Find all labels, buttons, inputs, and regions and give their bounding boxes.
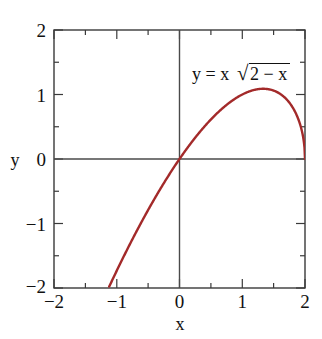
x-axis-title: x <box>176 314 185 334</box>
x-tick-label--1: −1 <box>107 291 127 312</box>
x-tick-label--2: −2 <box>44 291 64 312</box>
radical-icon: √ <box>237 61 249 85</box>
y-tick-label-0: 0 <box>37 149 47 170</box>
equation-lhs: y = x <box>192 64 229 84</box>
y-tick-label--1: −1 <box>26 214 46 235</box>
y-tick-label--2: −2 <box>26 276 46 297</box>
x-tick-label-0: 0 <box>175 291 185 312</box>
equation-radicand: 2 − x <box>250 64 287 84</box>
x-tick-label-1: 1 <box>238 291 248 312</box>
y-tick-label-2: 2 <box>37 20 47 41</box>
y-axis-title: y <box>11 150 20 170</box>
x-tick-label-2: 2 <box>300 291 310 312</box>
equation-annotation: y = x √ 2 − x <box>192 61 290 85</box>
y-tick-label-1: 1 <box>37 85 47 106</box>
chart-figure: −2 −1 0 1 2 2 1 0 −1 −2 y x y = x √ 2 − … <box>0 0 322 339</box>
function-plot: −2 −1 0 1 2 2 1 0 −1 −2 y x y = x √ 2 − … <box>0 0 322 339</box>
